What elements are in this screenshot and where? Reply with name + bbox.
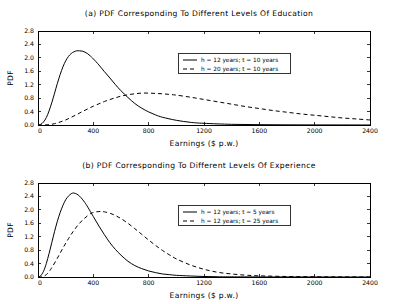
x-axis-label: Earnings ($ p.w.)	[170, 291, 239, 300]
plot-frame	[38, 183, 370, 277]
legend-label-0: h = 12 years; t = 5 years	[201, 209, 274, 216]
y-tick-label: 2.4	[24, 192, 34, 199]
x-axis-label: Earnings ($ p.w.)	[170, 139, 239, 148]
y-tick-label: 0.0	[24, 273, 34, 280]
legend-label-1: h = 20 years; t = 10 years	[201, 66, 278, 73]
x-tick-label: 400	[87, 279, 99, 286]
y-tick-label: 0.4	[24, 108, 34, 115]
x-tick-label: 0	[38, 127, 42, 134]
y-tick-label: 1.6	[24, 219, 34, 226]
chart-panel-a: (a) PDF Corresponding To Different Level…	[0, 0, 398, 152]
y-tick-label: 2.0	[24, 54, 34, 61]
x-tick-label: 0	[38, 279, 42, 286]
legend-label-1: h = 12 years; t = 25 years	[201, 218, 278, 225]
x-tick-label: 1600	[251, 279, 267, 286]
y-tick-label: 0.8	[24, 246, 34, 253]
x-tick-label: 2000	[307, 127, 323, 134]
x-tick-label: 1200	[196, 127, 212, 134]
x-tick-label: 2400	[362, 279, 378, 286]
x-tick-label: 800	[143, 279, 155, 286]
y-axis-label: PDF	[6, 222, 15, 238]
chart-panel-b: (b) PDF Corresponding To Different Level…	[0, 152, 398, 304]
x-tick-label: 1200	[196, 279, 212, 286]
y-tick-label: 2.8	[24, 27, 34, 34]
y-tick-label: 0.0	[24, 121, 34, 128]
x-tick-label: 2000	[307, 279, 323, 286]
legend-label-0: h = 12 years; t = 10 years	[201, 57, 278, 64]
y-tick-label: 1.2	[24, 233, 34, 240]
y-tick-label: 2.8	[24, 179, 34, 186]
plot-area-a: 040080012001600200024000.00.40.81.21.62.…	[0, 0, 398, 152]
plot-frame	[38, 31, 370, 125]
y-tick-label: 2.0	[24, 206, 34, 213]
x-tick-label: 800	[143, 127, 155, 134]
figure-container: (a) PDF Corresponding To Different Level…	[0, 0, 398, 304]
y-tick-label: 0.8	[24, 94, 34, 101]
series-curve-1	[38, 93, 370, 125]
x-tick-label: 1600	[251, 127, 267, 134]
y-axis-label: PDF	[6, 70, 15, 86]
y-tick-label: 2.4	[24, 40, 34, 47]
y-tick-label: 1.2	[24, 81, 34, 88]
x-tick-label: 2400	[362, 127, 378, 134]
y-tick-label: 1.6	[24, 67, 34, 74]
plot-area-b: 040080012001600200024000.00.40.81.21.62.…	[0, 152, 398, 304]
x-tick-label: 400	[87, 127, 99, 134]
y-tick-label: 0.4	[24, 260, 34, 267]
